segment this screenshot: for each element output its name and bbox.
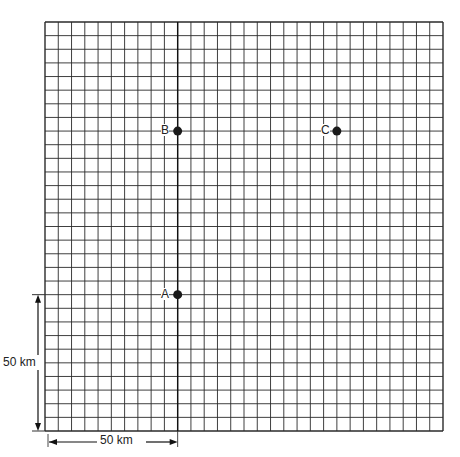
grid-lines [45,22,443,431]
point-label-b: B [161,124,169,136]
point-b-marker [173,127,182,136]
scale-arrows [35,295,178,447]
vertical-scale-label: 50 km [3,356,36,368]
grid-map-diagram [0,0,460,457]
point-label-a: A [161,288,169,300]
point-a-marker [173,290,182,299]
point-label-c: C [321,124,330,136]
horizontal-scale-label: 50 km [98,434,135,446]
point-c-marker [332,127,341,136]
